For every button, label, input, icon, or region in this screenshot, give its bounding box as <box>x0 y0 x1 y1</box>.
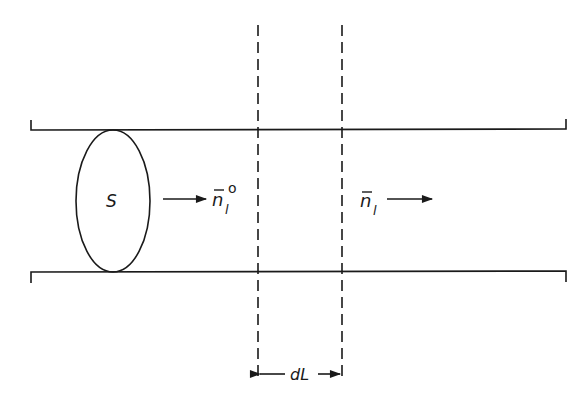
slab-thickness-label: dL <box>290 365 309 384</box>
tube-top-wall <box>31 119 566 130</box>
outgoing-flux-base: n <box>360 190 371 211</box>
incoming-flux-label: n l o <box>212 180 237 217</box>
incoming-flux-base: n <box>212 189 223 210</box>
incoming-flux-superscript: o <box>228 180 237 196</box>
beam-tube-diagram: S n l o n l dL <box>0 0 583 405</box>
source-label: S <box>106 191 117 211</box>
incoming-flux-subscript: l <box>225 202 229 217</box>
tube-bottom-wall <box>31 271 566 283</box>
outgoing-flux-subscript: l <box>373 203 377 218</box>
outgoing-flux-label: n l <box>360 190 377 218</box>
slab-boundaries <box>258 25 342 378</box>
